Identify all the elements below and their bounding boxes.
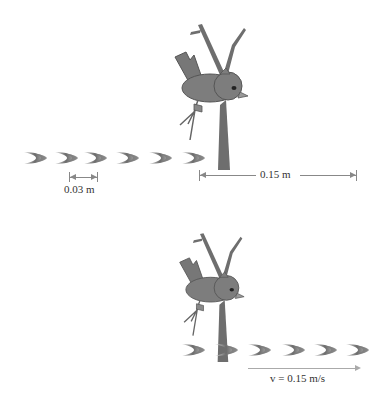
wavefront-icon bbox=[82, 150, 108, 166]
bottom-panel: v = 0.15 m/s bbox=[0, 200, 381, 398]
bird-on-branch-illustration bbox=[160, 0, 270, 170]
wavefront-icon bbox=[53, 150, 79, 166]
wavefront-icon bbox=[180, 342, 206, 358]
wavefront-icon bbox=[246, 342, 272, 358]
bird-on-branch-illustration bbox=[160, 212, 270, 362]
wavefront-icon bbox=[213, 342, 239, 358]
wavefront-icon bbox=[344, 342, 370, 358]
wavefront-icon bbox=[22, 150, 48, 166]
velocity-label: v = 0.15 m/s bbox=[270, 372, 325, 384]
wavelength-label: 0.03 m bbox=[64, 183, 95, 195]
wavefront-icon bbox=[312, 342, 338, 358]
wavefront-icon bbox=[180, 150, 206, 166]
wavefront-icon bbox=[114, 150, 140, 166]
wavefront-icon bbox=[147, 150, 173, 166]
top-panel: 0.03 m 0.15 m bbox=[0, 0, 381, 200]
distance-label: 0.15 m bbox=[260, 168, 291, 180]
wavefront-icon bbox=[280, 342, 306, 358]
